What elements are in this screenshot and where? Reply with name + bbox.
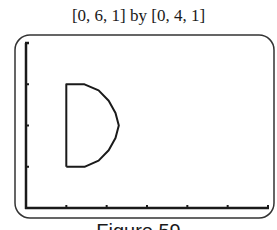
screen-frame [15,35,274,218]
calculator-screen [0,0,277,230]
axes [25,43,269,209]
figure-caption: Figure 59 [0,220,277,230]
d-shaped-curve [66,84,119,167]
tick-marks [26,84,268,208]
